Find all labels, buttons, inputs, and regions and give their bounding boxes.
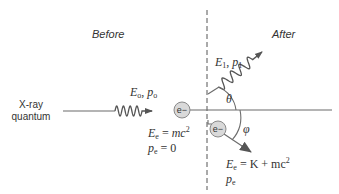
electron-after-tick: [208, 120, 212, 124]
electron-after: e−: [210, 121, 226, 137]
incoming-photon: [63, 106, 152, 116]
electron-before-energy: Ee = mc2: [147, 125, 190, 141]
xray-label-line1: X-ray: [19, 99, 43, 110]
phi-label: φ: [243, 122, 250, 136]
electron-after-symbol: e−: [213, 124, 223, 134]
electron-before-symbol: e−: [177, 105, 187, 115]
incoming-photon-wave: [115, 106, 152, 116]
scattered-photon-line: [208, 87, 219, 94]
electron-recoil-arrow: [224, 134, 251, 152]
xray-label-line2: quantum: [12, 111, 51, 122]
incoming-photon-label: Eo, po: [129, 85, 157, 100]
electron-after-energy: Ee = K + mc2: [225, 156, 290, 172]
electron-before: e−: [174, 102, 190, 118]
after-label: After: [271, 28, 297, 40]
phi-arc: [232, 110, 241, 140]
electron-after-momentum: pe: [225, 172, 236, 187]
compton-scattering-diagram: Before After X-ray quantum Eo, po e− Ee …: [0, 0, 339, 194]
theta-label: θ: [226, 92, 232, 106]
electron-before-momentum: pe = 0: [147, 141, 176, 156]
scattered-photon-label: E1, p1: [214, 55, 242, 70]
before-label: Before: [92, 28, 124, 40]
